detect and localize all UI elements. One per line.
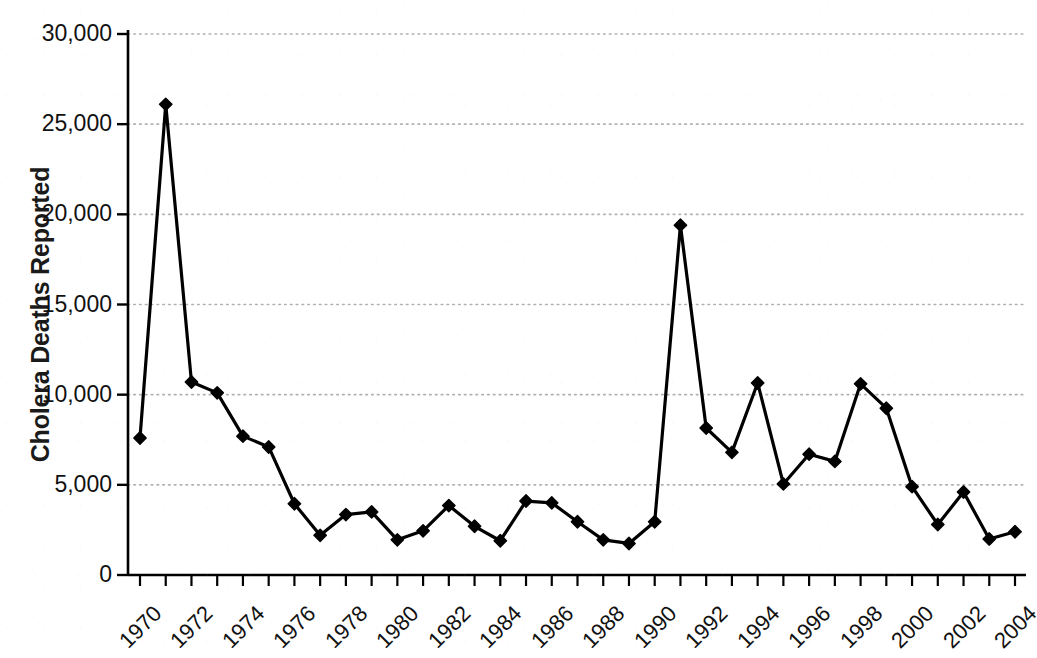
x-axis-tick-labels: 1970197219741976197819801982198419861988… xyxy=(0,0,1037,658)
chart-container: Cholera Deaths Reported 05,00010,00015,0… xyxy=(0,0,1037,658)
